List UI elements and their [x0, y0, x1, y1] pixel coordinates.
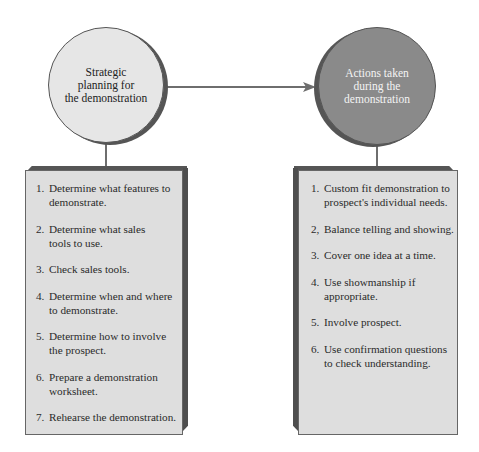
item-number: 5. [36, 329, 49, 357]
item-number: 7. [36, 410, 49, 424]
item-number: 1. [311, 181, 324, 209]
item-text: Check sales tools. [49, 262, 181, 276]
node-label-line: Strategic [65, 66, 148, 79]
list-item: 1.Custom fit demonstration to prospect's… [311, 181, 457, 209]
item-text: Involve prospect. [324, 315, 457, 329]
list-item: 1.Determine what features to demonstrate… [36, 181, 181, 209]
item-number: 2, [311, 222, 324, 236]
list-item: 3.Cover one idea at a time. [311, 248, 457, 262]
item-number: 6. [36, 370, 49, 398]
list-item: 5.Involve prospect. [311, 315, 457, 329]
planning-steps-list: 1.Determine what features to demonstrate… [36, 181, 181, 437]
list-item: 2,Balance telling and showing. [311, 222, 457, 236]
list-item: 4.Determine when and where to demonstrat… [36, 289, 181, 317]
item-text: Balance telling and showing. [324, 222, 457, 236]
item-text: Determine how to involve the prospect. [49, 329, 181, 357]
list-item: 6.Use confirmation questions to check un… [311, 342, 457, 370]
item-number: 4. [311, 275, 324, 303]
item-number: 6. [311, 342, 324, 370]
actions-taken-label: Actions taken during the demonstration [344, 67, 410, 106]
strategic-planning-node: Strategic planning for the demonstration [48, 27, 164, 143]
item-text: Custom fit demonstration to prospect's i… [324, 181, 457, 209]
left-box-bevel-side [183, 168, 188, 431]
item-text: Prepare a demonstration worksheet. [49, 370, 181, 398]
item-text: Determine when and where to demonstrate. [49, 289, 181, 317]
item-number: 3. [311, 248, 324, 262]
node-label-line: demonstration [344, 93, 410, 106]
item-number: 1. [36, 181, 49, 209]
planning-steps-box: 1.Determine what features to demonstrate… [25, 170, 183, 435]
item-text: Use showmanship if appropriate. [324, 275, 457, 303]
list-item: 5.Determine how to involve the prospect. [36, 329, 181, 357]
item-text: Determine what sales tools to use. [49, 222, 181, 250]
list-item: 2.Determine what sales tools to use. [36, 222, 181, 250]
list-item: 4.Use showmanship if appropriate. [311, 275, 457, 303]
demonstration-actions-list: 1.Custom fit demonstration to prospect's… [311, 181, 457, 382]
item-text: Determine what features to demonstrate. [49, 181, 181, 209]
item-number: 5. [311, 315, 324, 329]
item-number: 2. [36, 222, 49, 250]
item-text: Rehearse the demonstration. [49, 410, 181, 424]
node-label-line: the demonstration [65, 92, 148, 105]
list-item: 7.Rehearse the demonstration. [36, 410, 181, 424]
item-text: Use confirmation questions to check unde… [324, 342, 457, 370]
item-number: 4. [36, 289, 49, 317]
item-text: Cover one idea at a time. [324, 248, 457, 262]
actions-taken-node: Actions taken during the demonstration [318, 27, 436, 145]
node-label-line: Actions taken [344, 67, 410, 80]
strategic-planning-label: Strategic planning for the demonstration [65, 66, 148, 105]
node-label-line: planning for [65, 79, 148, 92]
list-item: 3.Check sales tools. [36, 262, 181, 276]
demonstration-actions-box: 1.Custom fit demonstration to prospect's… [298, 170, 458, 435]
item-number: 3. [36, 262, 49, 276]
list-item: 6.Prepare a demonstration worksheet. [36, 370, 181, 398]
node-label-line: during the [344, 80, 410, 93]
